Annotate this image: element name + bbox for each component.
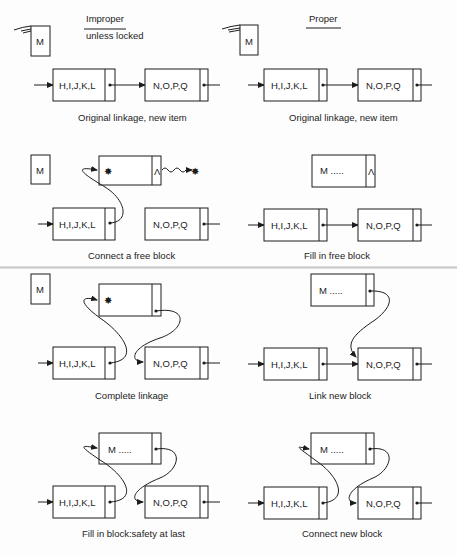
caption-left-1: Original linkage, new item: [78, 112, 187, 123]
caption-left-2: Connect a free block: [88, 250, 175, 261]
null-pointer-label: Λ: [368, 166, 375, 177]
caption-right-1: Original linkage, new item: [289, 112, 398, 123]
garbage-star-icon: ✸: [104, 295, 112, 306]
caption-left-3: Complete linkage: [95, 390, 168, 401]
caption-right-3: Link new block: [309, 390, 372, 401]
garbage-star-icon: ✸: [191, 166, 199, 177]
filled-block-label: M .....: [108, 444, 132, 455]
node-label-first: H,I,J,K,L: [271, 498, 307, 509]
node-label-first: H,I,J,K,L: [59, 497, 95, 508]
node-label-first: H,I,J,K,L: [271, 80, 307, 91]
node-label-first: H,I,J,K,L: [59, 80, 95, 91]
caption-right-2: Fill in free block: [304, 250, 370, 261]
node-label-first: H,I,J,K,L: [59, 219, 95, 230]
node-label-second: N,O,P,Q: [366, 220, 401, 231]
node-label-first: H,I,J,K,L: [271, 359, 307, 370]
new-item-label: M: [245, 36, 253, 47]
caption-right-4: Connect new block: [302, 528, 383, 539]
new-item-label: M: [36, 284, 44, 295]
heading-improper: Improper: [86, 13, 124, 24]
filled-block-label: M .....: [320, 444, 344, 455]
caption-left-4: Fill in block:safety at last: [82, 528, 185, 539]
null-pointer-label: Λ: [154, 166, 161, 177]
node-label-first: H,I,J,K,L: [59, 358, 95, 369]
linked-list-insertion-diagram: Improper unless locked Proper M H,I,J,K,…: [0, 0, 457, 557]
node-label-second: N,O,P,Q: [366, 80, 401, 91]
filled-block-label: M .....: [320, 165, 344, 176]
heading-unless-locked: unless locked: [86, 30, 144, 41]
filled-block-label: M .....: [319, 285, 343, 296]
new-item-label: M: [36, 165, 44, 176]
node-label-second: N,O,P,Q: [153, 497, 188, 508]
garbage-star-icon: ✸: [104, 166, 112, 177]
lock-hand-icon: [14, 26, 31, 33]
node-label-first: H,I,J,K,L: [271, 220, 307, 231]
lock-hand-icon: [222, 25, 240, 32]
node-label-second: N,O,P,Q: [153, 80, 188, 91]
new-item-label: M: [36, 36, 44, 47]
node-label-second: N,O,P,Q: [153, 219, 188, 230]
node-label-second: N,O,P,Q: [153, 358, 188, 369]
node-label-second: N,O,P,Q: [366, 359, 401, 370]
node-label-second: N,O,P,Q: [366, 498, 401, 509]
wavy-pointer: [162, 168, 186, 172]
heading-proper: Proper: [309, 13, 338, 24]
